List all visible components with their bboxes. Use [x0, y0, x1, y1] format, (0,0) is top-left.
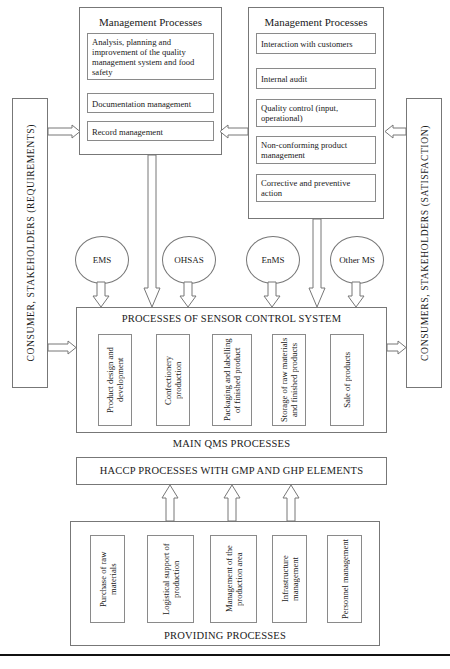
main-process-4[interactable]: Sale of products — [330, 334, 364, 426]
arrow-providing-up-1 — [162, 485, 178, 521]
arrow-core-to-right-axis — [387, 341, 406, 354]
arrow-management-right-to-left — [220, 125, 248, 138]
providing-process-4[interactable]: Personnel management — [327, 535, 362, 623]
diagram-canvas: CONSUMER, STAKEHOLDERS (REQUIREMENTS) CO… — [0, 0, 450, 669]
providing-process-0-label: Purchase of raw materials — [98, 538, 118, 620]
providing-process-3-label: Infrastructure management — [280, 538, 300, 620]
bottom-rule — [0, 654, 450, 656]
management-right-item-3[interactable]: Non-conforming product management — [256, 136, 376, 164]
arrow-right-axis-to-management-right — [385, 125, 406, 138]
providing-processes-caption: PROVIDING PROCESSES — [70, 630, 380, 641]
management-right-title: Management Processes — [248, 16, 384, 28]
arrow-left-axis-to-core — [48, 341, 76, 354]
right-axis-consumer-satisfaction: CONSUMERS, STAKEHOLDERS (SATISFACTION) — [406, 98, 442, 388]
main-process-2-label: Packaging and labelling of finished prod… — [222, 337, 242, 423]
main-process-3[interactable]: Storage of raw materials and finished pr… — [272, 334, 306, 426]
main-process-0-label: Product design and development — [105, 337, 125, 423]
management-right-item-4[interactable]: Corrective and preventive action — [256, 174, 376, 202]
providing-process-4-label: Personnel management — [340, 539, 350, 619]
standard-other-ms[interactable]: Other MS — [330, 236, 384, 284]
standard-enms-label: EnMS — [261, 255, 284, 265]
providing-process-1-label: Logistical support of production — [161, 538, 181, 620]
left-axis-consumer-requirements: CONSUMER, STAKEHOLDERS (REQUIREMENTS) — [12, 98, 48, 388]
standard-ohsas[interactable]: OHSAS — [162, 236, 216, 284]
arrow-providing-up-3 — [283, 485, 299, 521]
arrow-enms-down — [264, 282, 280, 307]
main-process-3-label: Storage of raw materials and finished pr… — [279, 337, 299, 423]
management-left-item-2[interactable]: Record management — [87, 121, 214, 141]
main-process-4-label: Sale of products — [342, 352, 352, 408]
providing-process-3[interactable]: Infrastructure management — [272, 535, 307, 623]
haccp-caption: HACCP PROCESSES WITH GMP AND GHP ELEMENT… — [76, 465, 387, 476]
management-right-item-0[interactable]: Interaction with customers — [256, 33, 376, 54]
main-process-0[interactable]: Product design and development — [98, 334, 132, 426]
standard-enms[interactable]: EnMS — [246, 236, 300, 284]
main-process-1[interactable]: Confectionery production — [156, 334, 190, 426]
standard-ohsas-label: OHSAS — [174, 255, 204, 265]
arrow-ohsas-down — [180, 282, 196, 307]
providing-process-1[interactable]: Logistical support of production — [147, 535, 194, 623]
providing-process-2-label: Management of the production area — [224, 538, 244, 620]
standard-ems[interactable]: EMS — [75, 236, 129, 284]
main-process-2[interactable]: Packaging and labelling of finished prod… — [212, 334, 252, 426]
providing-process-2[interactable]: Management of the production area — [210, 535, 257, 623]
arrow-left-axis-to-management — [48, 125, 80, 138]
core-process-system-title: PROCESSES OF SENSOR CONTROL SYSTEM — [76, 313, 387, 324]
arrow-ems-down — [93, 282, 109, 307]
management-left-title: Management Processes — [79, 16, 222, 28]
management-left-item-1[interactable]: Documentation management — [87, 93, 214, 113]
arrow-providing-up-2 — [224, 485, 240, 521]
management-left-item-0[interactable]: Analysis, planning and improvement of th… — [87, 33, 214, 80]
main-process-1-label: Confectionery production — [163, 337, 183, 423]
left-axis-label: CONSUMER, STAKEHOLDERS (REQUIREMENTS) — [25, 124, 36, 362]
standard-other-ms-label: Other MS — [339, 255, 375, 265]
arrow-other-ms-down — [348, 282, 364, 307]
main-qms-processes-caption: MAIN QMS PROCESSES — [76, 438, 387, 449]
arrow-management-left-down-to-core — [144, 155, 160, 307]
standard-ems-label: EMS — [93, 255, 112, 265]
arrow-management-right-down-to-core — [309, 219, 325, 307]
providing-process-0[interactable]: Purchase of raw materials — [90, 535, 125, 623]
right-axis-label: CONSUMERS, STAKEHOLDERS (SATISFACTION) — [419, 125, 430, 361]
management-right-item-2[interactable]: Quality control (input, operational) — [256, 99, 376, 127]
management-right-item-1[interactable]: Internal audit — [256, 68, 376, 89]
